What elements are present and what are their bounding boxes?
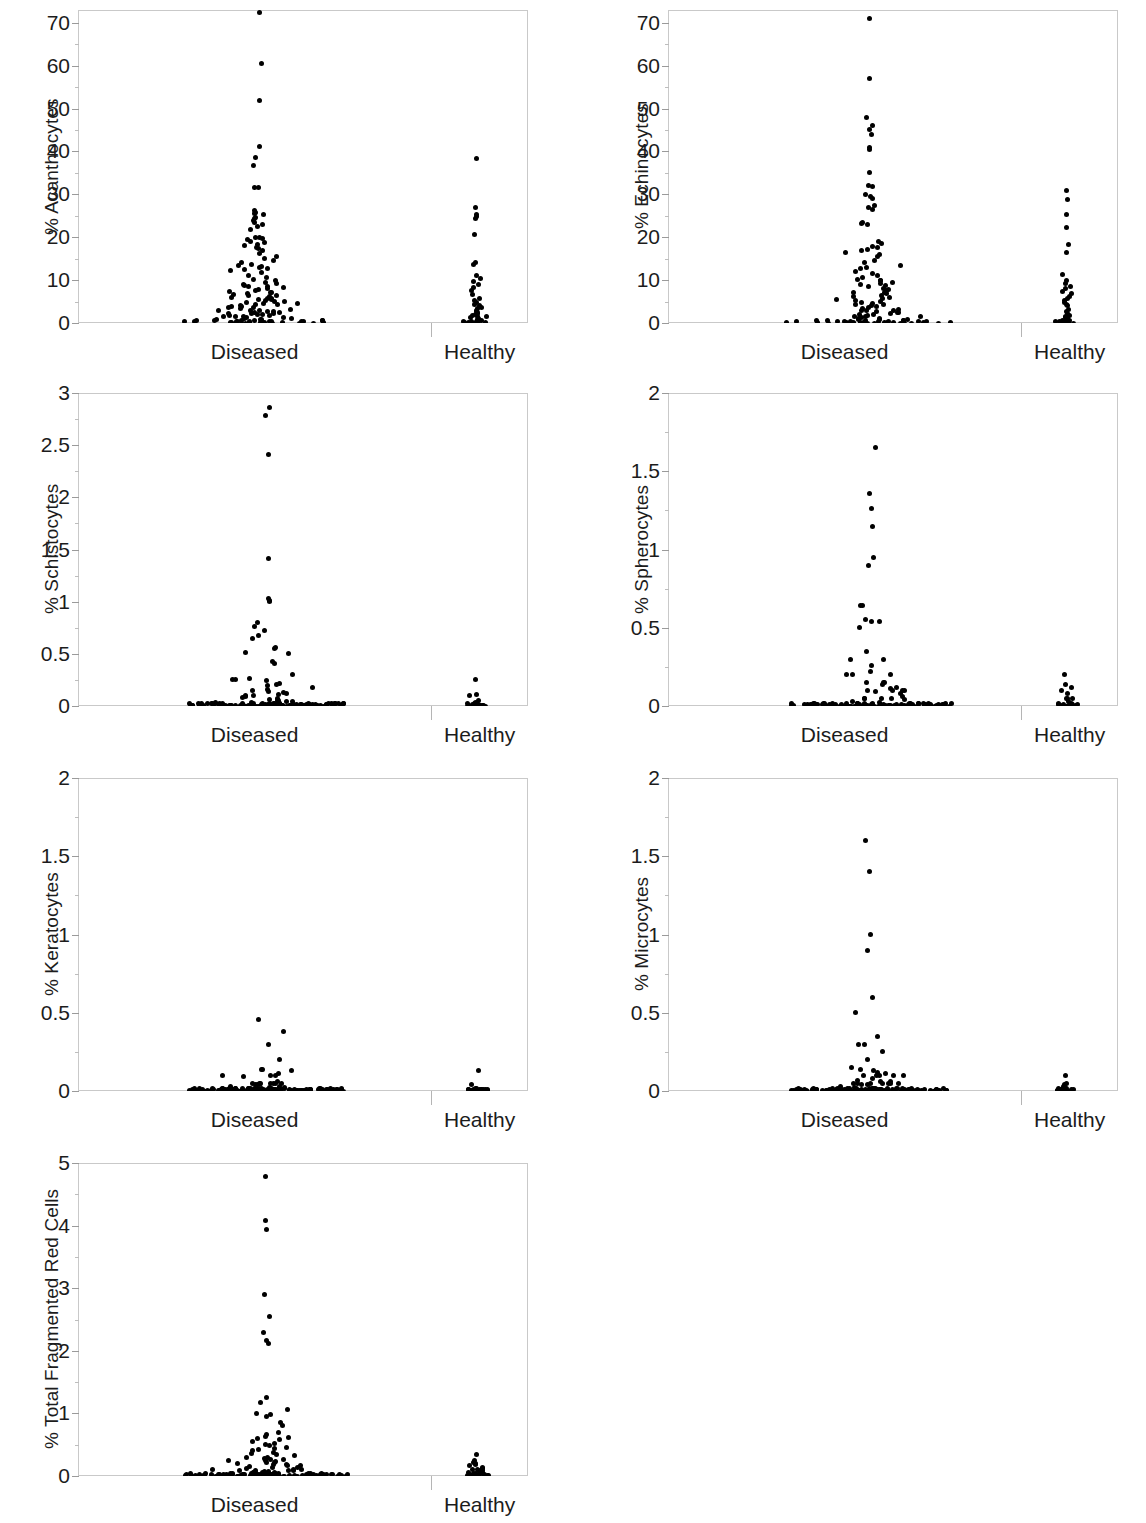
data-point <box>278 1088 283 1091</box>
data-point <box>229 320 234 323</box>
data-point <box>315 1474 320 1476</box>
data-point <box>870 196 875 201</box>
data-point <box>325 1087 330 1091</box>
data-point <box>227 313 232 318</box>
data-point <box>209 1472 214 1476</box>
data-point <box>934 1087 939 1091</box>
y-tick-label-keratocytes-1: 0.5 <box>41 1002 70 1023</box>
data-point <box>225 1088 230 1091</box>
data-point <box>252 1086 257 1091</box>
data-point <box>813 703 818 706</box>
data-point <box>479 318 484 323</box>
data-point <box>263 1434 268 1439</box>
data-point <box>1063 1089 1068 1091</box>
y-tick-acanthocytes-4 <box>72 151 79 152</box>
data-point <box>849 1088 854 1091</box>
data-point <box>927 703 932 706</box>
data-point <box>921 701 926 706</box>
data-point <box>475 314 480 319</box>
data-point <box>872 258 877 263</box>
data-point <box>794 1087 799 1091</box>
data-point <box>1062 1089 1067 1092</box>
data-point <box>343 1474 348 1476</box>
data-point <box>271 702 276 706</box>
data-point <box>867 704 872 707</box>
data-point <box>842 1087 847 1091</box>
data-point <box>223 704 228 706</box>
y-tick-total-fragmented-red-cells-5 <box>72 1163 79 1164</box>
data-point <box>318 1472 323 1476</box>
data-point <box>906 702 911 706</box>
data-point <box>474 309 479 314</box>
data-point <box>225 1474 230 1477</box>
data-point <box>256 297 261 302</box>
data-point <box>881 657 886 662</box>
data-point <box>265 284 270 289</box>
data-point <box>252 220 257 225</box>
data-point <box>879 1089 884 1092</box>
data-point <box>278 1089 283 1092</box>
data-point <box>890 280 895 285</box>
data-point <box>916 1088 921 1091</box>
data-point <box>264 1472 269 1476</box>
data-point <box>337 1472 342 1476</box>
data-point <box>474 300 479 305</box>
group-label-echinocytes-healthy: Healthy <box>990 341 1146 362</box>
data-point <box>1075 702 1080 706</box>
data-point <box>246 1086 251 1091</box>
data-point <box>810 1088 815 1091</box>
y-tick-echinocytes-7 <box>662 23 669 24</box>
data-point <box>259 1086 264 1091</box>
data-point <box>267 1085 272 1090</box>
data-point <box>268 1412 273 1417</box>
data-point <box>901 318 906 323</box>
data-point <box>874 304 879 309</box>
data-point <box>246 703 251 706</box>
data-point <box>483 704 488 706</box>
data-point <box>858 321 863 324</box>
data-point <box>224 1472 229 1476</box>
data-point <box>313 702 318 706</box>
data-point <box>335 1087 340 1091</box>
data-point <box>287 1473 292 1476</box>
data-point <box>227 289 232 294</box>
data-point <box>272 1087 277 1091</box>
data-point <box>1064 225 1069 230</box>
data-point <box>1070 703 1075 706</box>
data-point <box>1064 302 1069 307</box>
data-point <box>298 704 303 707</box>
data-point <box>877 700 882 705</box>
group-label-microcytes-diseased: Diseased <box>765 1109 925 1130</box>
data-point <box>480 703 485 706</box>
group-separator-total-fragmented-red-cells <box>431 1476 432 1490</box>
data-point <box>267 701 272 706</box>
data-point <box>275 1089 280 1092</box>
data-point <box>244 300 249 305</box>
data-point <box>878 299 883 304</box>
data-point <box>263 1442 268 1447</box>
data-point <box>890 1087 895 1091</box>
data-point <box>239 260 244 265</box>
data-point <box>896 1081 901 1086</box>
data-point <box>190 1087 195 1091</box>
data-point <box>273 278 278 283</box>
data-point <box>1058 320 1063 323</box>
data-point <box>261 212 266 217</box>
data-point <box>476 698 481 703</box>
data-point <box>242 243 247 248</box>
y-minor-tick-spherocytes-2 <box>665 510 669 511</box>
y-tick-label-echinocytes-2: 20 <box>637 226 660 247</box>
y-tick-label-microcytes-4: 2 <box>648 767 660 788</box>
data-point <box>309 1473 314 1476</box>
data-point <box>267 697 272 702</box>
data-point <box>916 701 921 706</box>
data-point <box>478 704 483 706</box>
data-point <box>924 319 929 323</box>
data-point <box>277 701 282 706</box>
data-point <box>287 703 292 706</box>
figure-root: % Acanthocytes010203040506070DiseasedHea… <box>0 0 1146 1523</box>
data-point <box>259 1067 264 1072</box>
data-point <box>870 702 875 706</box>
data-point <box>273 1081 278 1086</box>
data-point <box>329 1472 334 1476</box>
